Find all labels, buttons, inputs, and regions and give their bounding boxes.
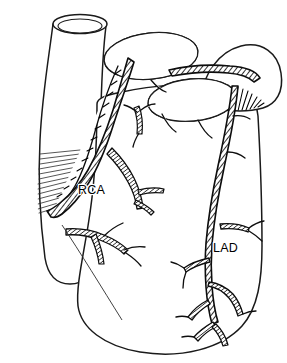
heart-illustration: RCA LAD [0, 0, 287, 363]
great-vessel-lumen-inner [58, 19, 102, 33]
lad-apical-1-twig [182, 336, 194, 337]
anatomy-figure: RCA LAD [0, 0, 287, 363]
ventricular-mass [78, 83, 262, 354]
label-lad: LAD [213, 241, 238, 255]
ventricle-outline [78, 83, 262, 354]
lad-septal-2-twig [176, 316, 188, 317]
label-rca: RCA [78, 183, 105, 197]
